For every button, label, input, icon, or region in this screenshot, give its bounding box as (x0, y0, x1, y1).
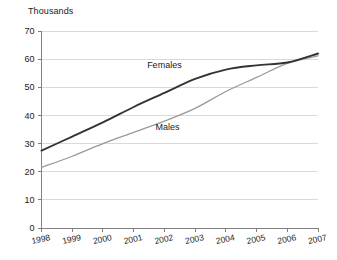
x-tick-label: 2001 (123, 232, 144, 246)
y-tick-label: 20 (24, 167, 34, 177)
series-line-males (42, 56, 319, 168)
chart-plot-area: 010203040506070 199819992000200120022003… (0, 0, 337, 260)
x-tick-label: 2002 (153, 232, 174, 246)
series-annotations: FemalesMales (147, 60, 182, 132)
y-tick-label: 40 (24, 111, 34, 121)
x-axis: 1998199920002001200220032004200520062007 (31, 228, 328, 246)
y-tick-label: 50 (24, 82, 34, 92)
line-chart: Thousands 010203040506070 19981999200020… (0, 0, 337, 260)
y-tick-label: 70 (24, 26, 34, 36)
data-series (42, 54, 319, 168)
y-tick-label: 10 (24, 195, 34, 205)
series-label-males: Males (155, 122, 180, 132)
x-tick-label: 2004 (215, 232, 236, 246)
x-tick-label: 2005 (246, 232, 267, 246)
x-tick-label: 2003 (184, 232, 205, 246)
x-tick-label: 2000 (92, 232, 113, 246)
x-tick-label: 2007 (307, 232, 328, 246)
series-label-females: Females (147, 60, 182, 70)
x-tick-label: 2006 (276, 232, 297, 246)
x-tick-label: 1999 (61, 232, 82, 246)
x-tick-label: 1998 (31, 232, 52, 246)
y-axis: 010203040506070 (24, 26, 41, 233)
y-tick-label: 60 (24, 54, 34, 64)
y-tick-label: 30 (24, 139, 34, 149)
y-tick-label: 0 (29, 223, 34, 233)
